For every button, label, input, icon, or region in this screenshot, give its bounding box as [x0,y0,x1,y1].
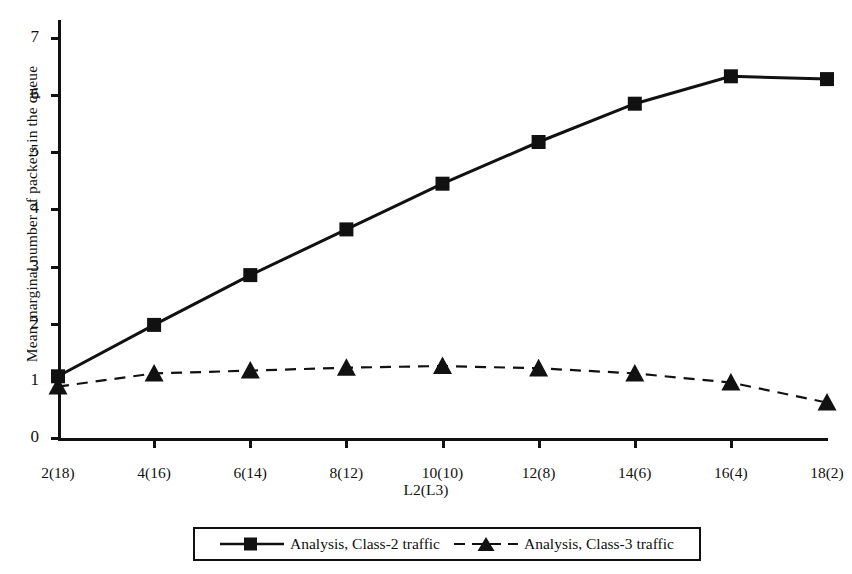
data-point-triangle [529,359,548,377]
x-tick-label: 14(6) [618,464,652,482]
y-tick-label: 1 [31,371,40,388]
chart-legend: Analysis, Class-2 traffic Analysis, Clas… [193,527,701,561]
data-point-square [820,72,834,86]
series-line-1 [58,76,827,376]
x-tick-label: 4(16) [137,464,171,482]
data-point-square [339,222,353,236]
x-tick-label: 2(18) [41,464,75,482]
legend-label-class-2: Analysis, Class-2 traffic [290,535,440,553]
chart-figure: Mean marginal number of packets in the q… [0,0,852,574]
y-tick-label: 3 [31,257,40,274]
x-tick-label: 8(12) [330,464,364,482]
x-tick-label: 18(2) [810,464,844,482]
y-tick-label: 6 [31,85,40,102]
data-point-square [724,69,738,83]
data-point-square [147,318,161,332]
legend-entry-class-3: Analysis, Class-3 traffic [454,535,674,553]
x-tick-label: 6(14) [233,464,267,482]
data-point-square [628,97,642,111]
series-layer [58,20,828,441]
y-tick-label: 7 [31,28,40,45]
legend-label-class-3: Analysis, Class-3 traffic [524,535,674,553]
x-tick-label: 12(8) [522,464,556,482]
data-point-square [532,135,546,149]
y-tick-label: 5 [31,142,40,159]
y-tick-label: 2 [31,314,40,331]
legend-swatch-solid-square-icon [220,536,284,552]
y-tick-label: 0 [31,428,40,445]
plot-area: 01234567 2(18)4(16)6(14)8(12)10(10)12(8)… [58,20,827,440]
data-point-triangle [433,357,452,375]
x-tick-label: 16(4) [714,464,748,482]
data-point-triangle [337,358,356,376]
x-tick-label: 10(10) [422,464,463,482]
y-tick-label: 4 [31,200,40,217]
legend-entry-class-2: Analysis, Class-2 traffic [220,535,454,553]
data-point-square [243,268,257,282]
legend-swatch-dashed-triangle-icon [454,536,518,552]
data-point-square [436,177,450,191]
x-axis-title: L2(L3) [0,481,852,499]
